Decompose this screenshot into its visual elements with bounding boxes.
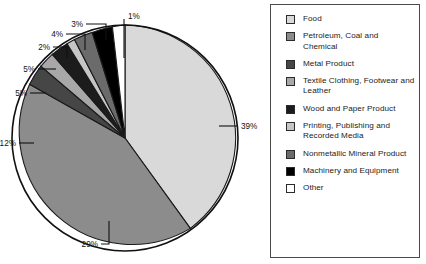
legend-swatch-icon	[286, 60, 295, 69]
legend-item[interactable]: Printing, Publishing and Recorded Media	[286, 121, 415, 142]
chart-legend: FoodPetroleum, Coal and ChemicalMetal Pr…	[270, 4, 420, 258]
data-label-2: 2%	[38, 43, 50, 52]
legend-swatch-icon	[286, 122, 295, 131]
legend-item[interactable]: Food	[286, 14, 415, 24]
legend-swatch-icon	[286, 32, 295, 41]
legend-item-label: Machinery and Equipment	[303, 166, 399, 176]
data-label-4: 4%	[51, 30, 63, 39]
legend-swatch-icon	[286, 167, 295, 176]
legend-item-label: Printing, Publishing and Recorded Media	[303, 121, 415, 142]
legend-swatch-icon	[286, 184, 295, 193]
legend-item-label: Metal Product	[303, 59, 354, 69]
data-label-5a: 5%	[15, 89, 27, 98]
legend-item[interactable]: Other	[286, 183, 415, 193]
pie-slices	[12, 25, 238, 251]
legend-item-label: Food	[303, 14, 322, 24]
legend-item[interactable]: Petroleum, Coal and Chemical	[286, 31, 415, 52]
legend-item[interactable]: Nonmetallic Mineral Product	[286, 149, 415, 159]
legend-swatch-icon	[286, 105, 295, 114]
legend-swatch-icon	[286, 77, 295, 86]
legend-item-label: Nonmetallic Mineral Product	[303, 149, 406, 159]
chart-canvas: 39% 29% 12% 5% 5% 2% 4% 3% 1% FoodPetrol…	[0, 0, 426, 264]
legend-swatch-icon	[286, 15, 295, 24]
data-label-3: 3%	[71, 20, 83, 29]
legend-item[interactable]: Wood and Paper Product	[286, 104, 415, 114]
legend-swatch-icon	[286, 150, 295, 159]
legend-item-label: Petroleum, Coal and Chemical	[303, 31, 415, 52]
data-label-5b: 5%	[23, 65, 35, 74]
data-label-39: 39%	[241, 122, 257, 131]
legend-item[interactable]: Metal Product	[286, 59, 415, 69]
legend-item[interactable]: Textile Clothing, Footwear and Leather	[286, 76, 415, 97]
data-label-29: 29%	[82, 240, 98, 249]
legend-item-label: Wood and Paper Product	[303, 104, 396, 114]
legend-item-label: Other	[303, 183, 324, 193]
data-label-12: 12%	[0, 139, 16, 148]
data-label-1: 1%	[128, 12, 140, 21]
legend-item-label: Textile Clothing, Footwear and Leather	[303, 76, 415, 97]
legend-item[interactable]: Machinery and Equipment	[286, 166, 415, 176]
